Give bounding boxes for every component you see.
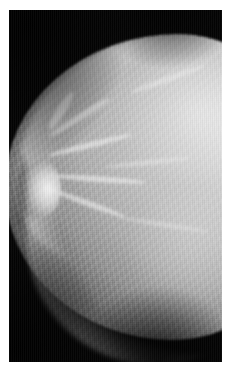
radiograph-image-field[interactable] [9,10,222,362]
parenchymal-texture-overlay [9,10,222,362]
radiograph-viewer[interactable] [0,0,235,375]
tissue-clip-group [9,10,222,362]
